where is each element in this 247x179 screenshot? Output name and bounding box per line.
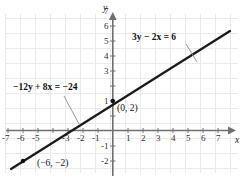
point-label-y-intercept: (0, 2) [117,104,138,114]
y-axis-label: y [103,4,107,14]
x-tick-label-neg5: -5 [32,134,40,143]
y-tick-label-1: 1 [104,97,109,106]
grid-lines [5,14,238,173]
x-tick-label-neg1: -1 [92,134,100,143]
x-tick-label-2: 2 [141,134,146,143]
x-axis-label: x [235,136,239,146]
point-marker-y-intercept [111,99,115,103]
x-tick-label-neg6: -6 [17,134,25,143]
x-tick-label-3: 3 [156,134,161,143]
x-axis-arrow [228,127,236,135]
point-marker-minus6-minus2 [21,159,25,163]
y-tick-label-3: 3 [104,67,109,76]
x-tick-label-neg7: -7 [2,134,10,143]
x-tick-label-1: 1 [126,134,131,143]
equation-label-right: 3y − 2x = 6 [132,33,176,43]
x-tick-label-7: 7 [216,134,221,143]
x-tick-label-5: 5 [186,134,191,143]
y-tick-label-4: 4 [104,52,109,61]
y-tick-label-5: 5 [104,37,109,46]
leader-line-left-equation [64,96,79,124]
x-tick-label-6: 6 [201,134,206,143]
equation-label-left: −12y + 8x = −24 [13,83,77,93]
y-tick-label-neg2: -2 [101,157,109,166]
x-tick-label-neg3: -3 [62,134,70,143]
y-tick-label-6: 6 [104,22,109,31]
plotted-line [11,31,230,169]
point-label-minus6-minus2: (−6, −2) [37,159,68,169]
graph-figure: -7 -6 -5 -3 -2 -1 1 2 3 4 5 6 7 1 3 4 5 … [0,0,247,179]
x-tick-label-neg2: -2 [77,134,85,143]
y-tick-label-neg1: -1 [101,142,109,151]
x-tick-label-4: 4 [171,134,176,143]
